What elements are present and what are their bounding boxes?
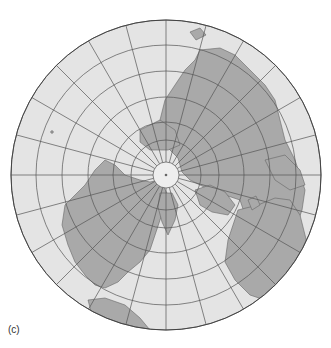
figure-label: (c) (8, 324, 20, 335)
north-pole-dot (165, 174, 168, 177)
land-island (51, 131, 54, 134)
polar-map (0, 0, 331, 348)
